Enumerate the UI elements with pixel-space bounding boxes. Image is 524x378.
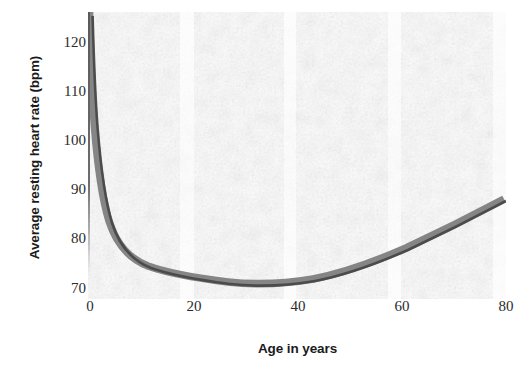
y-tick-120: 120 <box>40 35 86 50</box>
x-axis-title: Age in years <box>90 341 505 356</box>
x-tick-20: 20 <box>164 299 224 314</box>
chart-figure: 120 110 100 90 80 70 0 20 40 60 80 Avera… <box>0 0 524 378</box>
y-axis-title: Average resting heart rate (bpm) <box>27 8 42 308</box>
y-tick-90: 90 <box>40 182 86 197</box>
y-tick-110: 110 <box>40 84 86 99</box>
curve-left-edge <box>88 12 90 299</box>
x-axis-ticks: 0 20 40 60 80 <box>0 299 524 323</box>
x-tick-60: 60 <box>372 299 432 314</box>
plot-area <box>88 12 506 299</box>
y-tick-80: 80 <box>40 231 86 246</box>
x-tick-40: 40 <box>268 299 328 314</box>
y-tick-100: 100 <box>40 133 86 148</box>
y-tick-70: 70 <box>40 281 86 296</box>
plot-svg <box>88 12 506 299</box>
x-tick-0: 0 <box>60 299 120 314</box>
x-tick-80: 80 <box>476 299 524 314</box>
